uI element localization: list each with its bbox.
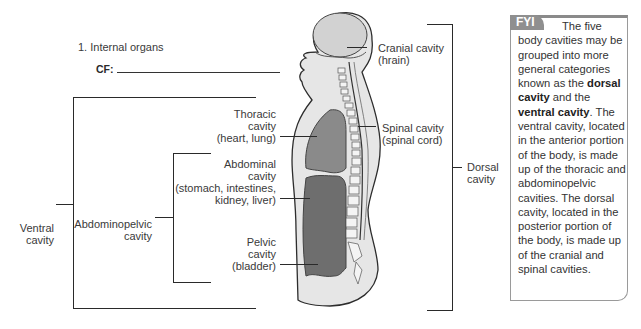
fyi-sidebar: FYI The five body cavities may be groupe… bbox=[510, 15, 628, 301]
label-pelvic-cavity: Pelvic cavity (bladder) bbox=[196, 236, 276, 272]
label-cranial-cavity: Cranial cavity (hrain) bbox=[378, 42, 444, 66]
cranial-cavity-brain bbox=[313, 13, 367, 57]
ventral-bracket-vertical bbox=[73, 97, 74, 309]
cf-label: CF: bbox=[96, 63, 114, 75]
term-ventral-cavity: ventral cavity bbox=[518, 106, 590, 118]
abdominopelvic-bracket-top bbox=[173, 153, 211, 154]
ventral-bracket-bottom bbox=[73, 308, 256, 309]
abdominopelvic-cavity bbox=[303, 176, 346, 277]
leader-pelvic bbox=[280, 264, 318, 265]
dorsal-tick bbox=[453, 167, 462, 168]
dorsal-bracket-bottom bbox=[427, 310, 453, 311]
fyi-text: The five body cavities may be grouped in… bbox=[518, 19, 626, 276]
label-dorsal-cavity: Dorsal cavity bbox=[467, 161, 499, 185]
label-abdominopelvic-cavity: Abdominopelvic cavity bbox=[66, 218, 152, 242]
dorsal-bracket-top bbox=[427, 24, 453, 25]
cf-answer-blank[interactable] bbox=[117, 72, 280, 73]
label-abdominal-cavity: Abdominal cavity (stomach, intestines, k… bbox=[166, 158, 276, 206]
leader-abdominal bbox=[280, 198, 310, 199]
label-spinal-cavity: Spinal cavity (spinal cord) bbox=[382, 122, 444, 146]
leader-cranial bbox=[347, 47, 367, 48]
ventral-bracket-top bbox=[73, 97, 256, 98]
leader-thoracic bbox=[280, 136, 317, 137]
abdominopelvic-bracket-vertical bbox=[173, 153, 174, 282]
ventral-tick bbox=[56, 204, 73, 205]
abdominopelvic-tick bbox=[155, 217, 173, 218]
abdominopelvic-bracket-bottom bbox=[173, 282, 211, 283]
label-ventral-cavity: Ventral cavity bbox=[14, 222, 54, 246]
leader-spinal bbox=[358, 126, 376, 127]
exercise-number-label: 1. Internal organs bbox=[78, 41, 164, 53]
label-thoracic-cavity: Thoracic cavity (heart, lung) bbox=[196, 108, 276, 144]
